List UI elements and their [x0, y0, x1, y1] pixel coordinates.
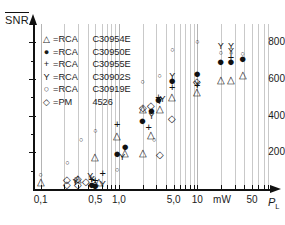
y-axis-line: [33, 22, 35, 190]
data-point-triangle: △: [91, 152, 99, 161]
x-tick-label: 0,5: [88, 194, 102, 205]
y-axis-title-text: SNR: [5, 14, 29, 26]
legend-manufacturer: PM: [58, 96, 92, 109]
legend-model: C30902S: [92, 71, 130, 84]
data-point-open-circle: ○: [79, 134, 83, 143]
data-point-diamond: ◇: [74, 180, 82, 189]
data-point-open-circle: ○: [219, 48, 223, 57]
legend-model: 4526: [92, 96, 112, 109]
gridline: [194, 24, 195, 189]
gridline: [258, 24, 259, 189]
gridline: [268, 24, 269, 189]
y-tick-minor: [31, 171, 35, 172]
data-point-triangle: △: [217, 75, 225, 84]
y-axis-title-overline: [5, 12, 29, 13]
data-point-open-circle: ○: [38, 170, 42, 179]
legend-model: C30950E: [92, 46, 130, 59]
data-point-open-circle: ○: [115, 164, 119, 173]
legend-model: C30955E: [92, 58, 130, 71]
y-tick-label: 400: [260, 110, 285, 121]
legend-marker-icon: ○: [40, 83, 53, 96]
legend-marker-icon: ●: [40, 46, 53, 59]
x-tick: [244, 185, 245, 190]
x-tick: [180, 185, 181, 190]
legend-model: C30954E: [92, 33, 130, 46]
x-tick: [268, 185, 269, 190]
legend-manufacturer: RCA: [58, 33, 92, 46]
data-point-open-circle: ○: [241, 49, 245, 58]
data-point-triangle: △: [168, 92, 176, 101]
data-point-diamond: ◇: [139, 103, 147, 112]
x-tick: [166, 185, 167, 190]
data-point-plus: +: [169, 83, 175, 92]
x-tick: [221, 185, 222, 190]
data-point-plus: +: [114, 119, 120, 128]
data-point-open-circle: ○: [93, 126, 97, 135]
gridline: [197, 24, 198, 189]
legend-manufacturer: RCA: [58, 46, 92, 59]
snr-vs-laser-power-chart: SNR PL 200400600800 0,10,51,05,010mW50 △…: [0, 0, 285, 225]
data-point-open-circle: ○: [157, 71, 161, 80]
x-tick-label: 50: [246, 194, 257, 205]
data-point-diamond: ◇: [63, 180, 71, 189]
x-tick: [258, 185, 259, 190]
data-point-triangle: △: [239, 69, 247, 78]
legend-row: ◇=PM4526: [40, 96, 131, 109]
gridline: [166, 24, 167, 189]
data-point-plus: +: [99, 168, 105, 177]
x-tick: [235, 185, 236, 190]
data-point-Y: Y: [100, 180, 106, 189]
y-tick-label: 600: [260, 73, 285, 84]
data-point-open-circle: ○: [140, 76, 144, 85]
data-point-plus: +: [145, 122, 151, 131]
x-tick: [143, 185, 144, 190]
x-tick-label: 0,1: [34, 194, 48, 205]
legend-marker-icon: +: [40, 58, 53, 71]
legend-manufacturer: RCA: [58, 83, 92, 96]
y-tick: [29, 79, 36, 80]
legend-marker-icon: Y: [40, 71, 53, 84]
data-point-diamond: ◇: [147, 100, 155, 109]
x-tick: [156, 185, 157, 190]
gridline: [185, 24, 186, 189]
legend-row: Y=RCAC30902S: [40, 71, 131, 84]
x-tick: [194, 185, 195, 190]
x-tick-label: mW: [213, 194, 231, 205]
data-point-Y: Y: [159, 95, 165, 104]
data-point-open-circle: ○: [170, 44, 174, 53]
x-tick-label: 1,0: [112, 194, 126, 205]
data-point-filled-circle: ●: [217, 56, 225, 65]
legend-marker-icon: △: [40, 33, 53, 46]
x-tick-label: 5,0: [167, 194, 181, 205]
data-point-Y: Y: [169, 72, 175, 81]
data-point-diamond: ◇: [156, 150, 164, 159]
y-axis-title: SNR: [5, 12, 29, 26]
y-tick-label: 200: [260, 146, 285, 157]
gridline: [235, 24, 236, 189]
data-point-triangle: △: [139, 148, 147, 157]
data-point-Y: Y: [148, 111, 154, 120]
x-tick: [190, 185, 191, 190]
data-point-open-circle: ○: [195, 36, 199, 45]
data-point-diamond: ◇: [91, 179, 99, 188]
y-tick: [29, 42, 36, 43]
y-tick-minor: [31, 24, 35, 25]
data-point-diamond: ◇: [193, 76, 201, 85]
data-point-triangle: △: [227, 75, 235, 84]
x-tick: [119, 185, 120, 190]
x-tick-label: 10: [192, 194, 203, 205]
legend: △=RCAC30954E●=RCAC30950E+=RCAC30955EY=RC…: [40, 33, 131, 109]
x-tick: [197, 185, 198, 190]
y-tick: [29, 116, 36, 117]
data-point-filled-circle: ●: [121, 141, 129, 150]
data-point-open-circle: ○: [65, 158, 69, 167]
data-point-diamond: ◇: [82, 176, 90, 185]
y-tick: [29, 152, 36, 153]
data-point-open-circle: ○: [152, 134, 156, 143]
x-tick: [174, 185, 175, 190]
x-axis-title: PL: [268, 196, 280, 211]
y-tick-minor: [31, 61, 35, 62]
y-tick-label: 800: [260, 36, 285, 47]
data-point-open-circle: ○: [229, 48, 233, 57]
gridline: [190, 24, 191, 189]
